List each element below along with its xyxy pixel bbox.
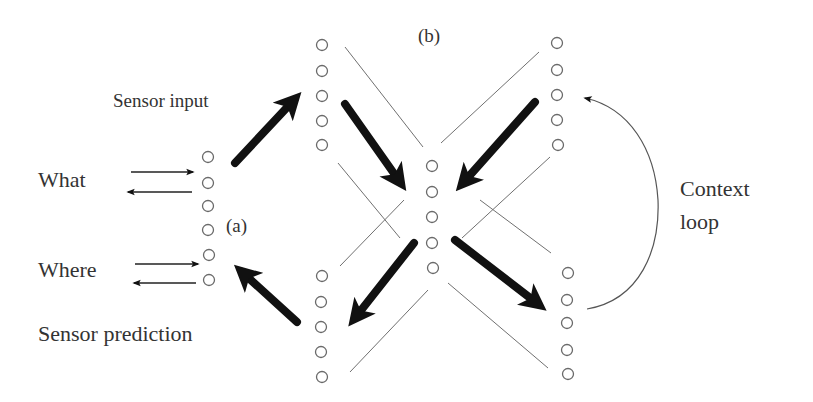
layer-b-top-left	[317, 40, 328, 151]
io-arrows	[128, 172, 198, 283]
loop-label: loop	[680, 209, 719, 234]
sensor-prediction-label: Sensor prediction	[38, 321, 193, 346]
connection-lines	[338, 47, 551, 372]
top-right-to-center-arrow	[463, 102, 535, 183]
context-label: Context	[680, 176, 750, 201]
layer-b-center	[427, 161, 439, 274]
layer-b-top-right	[552, 38, 564, 151]
center-to-bottom-right-arrow	[455, 240, 538, 304]
sensor-prediction-arrow	[242, 272, 297, 322]
layer-b-bottom-left	[316, 271, 328, 383]
network-diagram: (b) (a) Sensor input What Where Sensor p…	[0, 0, 813, 402]
panel-b-label: (b)	[418, 25, 440, 47]
sensor-input-arrow	[235, 100, 294, 163]
what-label: What	[38, 167, 86, 192]
where-label: Where	[38, 257, 97, 282]
bold-arrows	[235, 100, 538, 322]
layer-b-bottom-right	[562, 268, 574, 380]
sensor-input-label: Sensor input	[113, 90, 209, 111]
layer-a-interface	[203, 152, 215, 286]
top-left-to-center-arrow	[345, 104, 400, 182]
panel-a-label: (a)	[226, 215, 247, 237]
context-loop-arrow	[585, 98, 658, 309]
center-to-bottom-left-arrow	[355, 243, 414, 318]
